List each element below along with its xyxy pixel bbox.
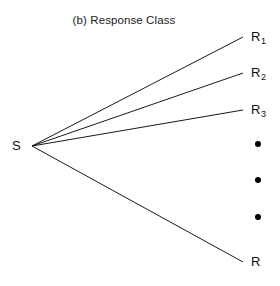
edge-s-to-r1 xyxy=(32,37,243,146)
ellipsis-dot-3 xyxy=(255,214,261,220)
response-subscript-2: 2 xyxy=(261,72,266,82)
ellipsis-dot-2 xyxy=(255,177,261,183)
edge-s-to-r2 xyxy=(32,73,243,146)
response-node-label-3: R3 xyxy=(251,103,266,119)
response-node-label-last: R xyxy=(251,255,261,271)
response-node-label-2: R2 xyxy=(251,66,266,82)
response-letter-2: R xyxy=(251,65,260,80)
fan-lines-svg xyxy=(0,0,280,286)
ellipsis-dot-1 xyxy=(255,141,261,147)
response-letter-1: R xyxy=(251,29,260,44)
stimulus-letter: S xyxy=(12,138,21,153)
stimulus-node-label: S xyxy=(12,139,21,152)
edge-s-to-r3 xyxy=(32,110,243,146)
response-subscript-3: 3 xyxy=(261,109,266,119)
response-subscript-1: 1 xyxy=(261,36,266,46)
response-letter-3: R xyxy=(251,102,260,117)
response-class-figure: (b) Response Class S R1 R2 R3 R xyxy=(0,0,280,286)
response-letter-last: R xyxy=(251,254,260,269)
response-node-label-1: R1 xyxy=(251,30,266,46)
edge-s-to-r-last xyxy=(32,146,243,262)
